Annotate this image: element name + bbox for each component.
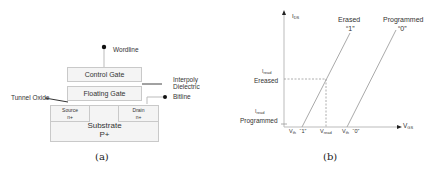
vth-erased-label: Vth “1” <box>289 129 306 135</box>
x-axis-label: VGS <box>403 123 413 130</box>
y-axis-label: IDS <box>292 13 299 20</box>
interpoly-label-line2: Dielectric <box>173 84 200 91</box>
bitline-label: Bitline <box>173 94 191 101</box>
source-doping: n+ <box>67 114 73 120</box>
control-gate: Control Gate <box>67 67 142 82</box>
erased-curve-label: Erased <box>338 16 360 23</box>
iread-erased-label: Ereased <box>254 78 278 85</box>
source-region: Source n+ <box>50 105 90 122</box>
caption-b: (b) <box>323 151 337 162</box>
erased-bit-label: “1” <box>346 25 355 32</box>
wordline-terminal-dot <box>102 45 106 49</box>
substrate-doping: P+ <box>99 130 109 139</box>
caption-a: (a) <box>95 151 109 162</box>
programmed-curve <box>347 30 396 127</box>
iread-programmed-label: Programmed <box>240 118 278 125</box>
drain-region: Drain n+ <box>118 105 159 122</box>
vread-label: Vread <box>320 129 332 135</box>
bitline-terminal-dot <box>163 95 167 99</box>
programmed-bit-label: “0” <box>398 25 407 32</box>
substrate-label: Substrate <box>87 121 121 130</box>
programmed-curve-label: Programmed <box>383 16 423 23</box>
tunnel-oxide-label: Tunnel Oxide <box>11 95 49 102</box>
vth-programmed-label: Vth “0” <box>342 129 359 135</box>
diagram-lines <box>0 0 433 185</box>
iread-programmed-symbol: Iread <box>255 109 264 115</box>
floating-gate: Floating Gate <box>67 86 142 101</box>
iread-erased-symbol: Iread <box>262 69 271 75</box>
wordline-label: Wordline <box>113 47 139 54</box>
drain-doping: n+ <box>136 114 142 120</box>
